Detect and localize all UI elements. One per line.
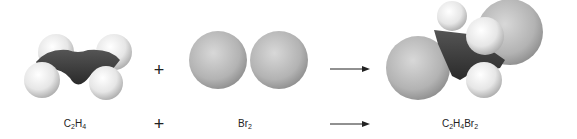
dibromoethane-molecule xyxy=(386,0,543,100)
reaction-arrow-top xyxy=(330,66,370,72)
plus-sign-bottom: + xyxy=(154,115,165,133)
ethylene-molecule xyxy=(24,34,132,100)
label-br2: Br2 xyxy=(238,118,252,130)
reaction-arrow-bottom xyxy=(330,121,370,127)
bromine-molecule xyxy=(189,31,308,89)
label-c2h4br2: C2H4Br2 xyxy=(442,118,478,130)
label-c2h4: C2H4 xyxy=(64,118,86,130)
reaction-diagram xyxy=(0,0,577,139)
plus-sign-top: + xyxy=(154,61,165,79)
